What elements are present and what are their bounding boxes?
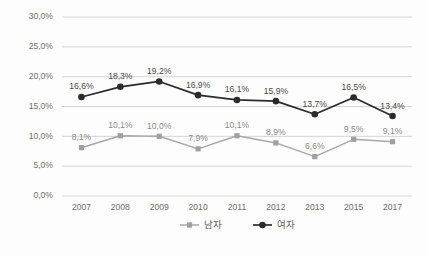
- data-point-label-male: 8,1%: [72, 132, 92, 142]
- data-point-label-male: 10,0%: [147, 121, 172, 131]
- line-chart: 0,0%5,0%10,0%15,0%20,0%25,0%30,0% 200720…: [0, 0, 427, 256]
- data-point-marker-male: [312, 154, 317, 159]
- data-point-label-male: 9,5%: [344, 124, 364, 134]
- data-point-marker-male: [234, 133, 239, 138]
- x-axis-tick-label: 2011: [228, 202, 247, 212]
- chart-legend: 남자여자: [180, 219, 295, 230]
- x-axis-tick-labels: 200720082009201020112012201320152017: [72, 202, 402, 212]
- data-point-marker-male: [157, 134, 162, 139]
- x-axis-tick-label: 2017: [383, 202, 402, 212]
- data-point-marker-female: [350, 94, 357, 101]
- data-point-marker-female: [273, 98, 280, 105]
- y-axis-tick-label: 25,0%: [29, 41, 54, 51]
- data-point-label-male: 8,9%: [266, 127, 286, 137]
- data-point-marker-male: [79, 145, 84, 150]
- legend-label-male: 남자: [204, 219, 222, 230]
- data-point-label-female: 16,9%: [186, 80, 211, 90]
- data-point-label-male: 10,1%: [108, 120, 133, 130]
- data-point-label-male: 7,9%: [188, 133, 208, 143]
- data-point-marker-female: [234, 97, 241, 104]
- x-axis-tick-label: 2007: [72, 202, 91, 212]
- legend-marker-male: [187, 222, 192, 227]
- y-axis-tick-labels: 0,0%5,0%10,0%15,0%20,0%25,0%30,0%: [29, 11, 54, 200]
- data-point-label-female: 15,9%: [264, 86, 289, 96]
- data-point-label-male: 10,1%: [225, 120, 250, 130]
- series-group: 8,1%10,1%10,0%7,9%10,1%8,9%6,6%9,5%9,1%1…: [69, 66, 405, 159]
- grid-lines: [62, 17, 412, 196]
- x-axis-tick-label: 2012: [266, 202, 285, 212]
- y-axis-tick-label: 10,0%: [29, 131, 54, 141]
- data-point-marker-male: [351, 137, 356, 142]
- data-point-marker-female: [156, 78, 163, 85]
- x-axis-tick-label: 2009: [150, 202, 169, 212]
- series-line-male: [81, 136, 392, 157]
- x-axis-tick-label: 2010: [189, 202, 208, 212]
- legend-marker-female: [259, 222, 266, 229]
- data-point-marker-female: [78, 94, 85, 101]
- data-point-label-female: 16,5%: [341, 82, 366, 92]
- x-axis-tick-label: 2015: [344, 202, 363, 212]
- data-point-label-female: 19,2%: [147, 66, 172, 76]
- data-point-marker-female: [311, 111, 318, 118]
- data-point-marker-male: [196, 146, 201, 151]
- data-point-label-female: 16,1%: [225, 84, 250, 94]
- y-axis-tick-label: 5,0%: [33, 160, 53, 170]
- data-point-marker-female: [389, 113, 396, 120]
- data-point-marker-male: [273, 140, 278, 145]
- y-axis-tick-label: 20,0%: [29, 71, 54, 81]
- x-axis-tick-label: 2008: [111, 202, 130, 212]
- y-axis-tick-label: 0,0%: [33, 190, 53, 200]
- data-point-marker-male: [118, 133, 123, 138]
- data-point-label-female: 13,7%: [303, 99, 328, 109]
- data-point-label-female: 13,4%: [380, 101, 405, 111]
- y-axis-tick-label: 30,0%: [29, 11, 54, 21]
- y-axis-tick-label: 15,0%: [29, 101, 54, 111]
- chart-container: 0,0%5,0%10,0%15,0%20,0%25,0%30,0% 200720…: [0, 0, 427, 256]
- legend-label-female: 여자: [277, 219, 295, 230]
- data-point-label-male: 9,1%: [383, 126, 403, 136]
- x-axis-tick-label: 2013: [305, 202, 324, 212]
- data-point-label-female: 18,3%: [108, 71, 133, 81]
- data-point-label-female: 16,6%: [69, 81, 94, 91]
- data-point-marker-female: [117, 84, 124, 91]
- data-point-label-male: 6,6%: [305, 141, 325, 151]
- data-point-marker-male: [390, 139, 395, 144]
- data-point-marker-female: [195, 92, 202, 99]
